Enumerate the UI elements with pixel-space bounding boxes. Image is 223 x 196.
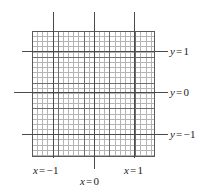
horizontal-line-y-eq-1 (22, 51, 168, 52)
label-x-eq-1-operator: = (129, 164, 137, 176)
vertical-line-x-eq-0 (94, 12, 95, 169)
horizontal-line-y-eq-minus-1 (22, 134, 168, 135)
label-y-eq-0: y=0 (170, 86, 189, 98)
horizontal-line-y-eq-0 (14, 92, 168, 93)
vertical-line-x-eq-1 (134, 12, 135, 158)
label-y-eq-minus-1-operator: = (175, 128, 183, 140)
label-x-eq-0-value: 0 (94, 175, 100, 187)
label-x-eq-0: x=0 (80, 175, 99, 187)
label-x-eq-minus-1-operator: = (38, 164, 46, 176)
label-y-eq-0-value: 0 (184, 86, 190, 98)
label-x-eq-minus-1-value: −1 (47, 164, 59, 176)
vertical-line-x-eq-minus-1 (53, 12, 54, 158)
label-y-eq-1: y=1 (170, 45, 189, 57)
label-y-eq-minus-1: y=−1 (170, 128, 196, 140)
label-x-eq-0-operator: = (85, 175, 93, 187)
label-x-eq-minus-1: x=−1 (33, 164, 59, 176)
coordinate-grid-figure: y=1 y=0 y=−1 x=−1 x=0 x=1 (0, 0, 223, 196)
label-y-eq-1-operator: = (175, 45, 183, 57)
label-y-eq-1-value: 1 (184, 45, 190, 57)
label-y-eq-minus-1-value: −1 (184, 128, 196, 140)
label-y-eq-0-operator: = (175, 86, 183, 98)
label-x-eq-1: x=1 (124, 164, 143, 176)
label-x-eq-1-value: 1 (138, 164, 144, 176)
